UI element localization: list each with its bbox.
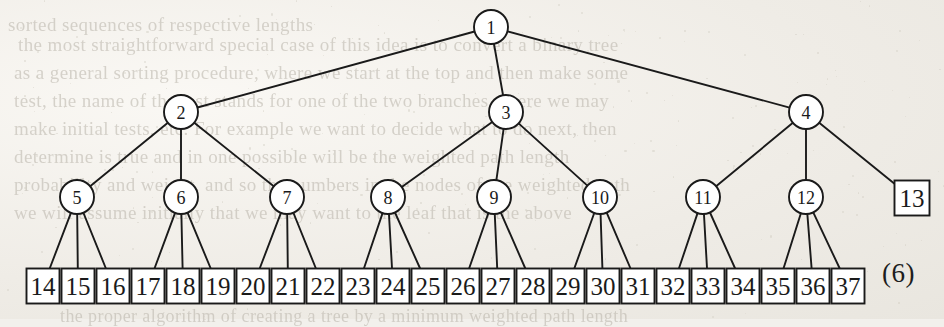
- tree-edge: [402, 122, 492, 187]
- tree-node-label: 21: [276, 273, 301, 300]
- tree-edge: [496, 129, 503, 180]
- tree-edge: [494, 44, 503, 96]
- tree-node-label: 10: [591, 188, 609, 208]
- tree-node-label: 22: [311, 273, 336, 300]
- tree-edge: [574, 213, 594, 269]
- tree-edge: [819, 123, 894, 184]
- tree-edge: [194, 123, 273, 187]
- tree-node-label: 26: [451, 273, 476, 300]
- tree-edge: [154, 213, 175, 269]
- tree-node-label: 34: [731, 273, 757, 300]
- tree-edge: [710, 213, 735, 269]
- tree-edge: [607, 213, 631, 269]
- tree-node-label: 9: [490, 188, 499, 208]
- tree-node-label: 20: [241, 273, 266, 300]
- tree-edge: [293, 213, 316, 269]
- tree-node-label: 23: [346, 273, 371, 300]
- tree-edge: [519, 123, 588, 185]
- tree-edge: [813, 212, 839, 268]
- tree-edge: [83, 213, 106, 269]
- scan-speck: [437, 319, 439, 321]
- tree-node-label: 13: [900, 185, 925, 212]
- tree-edge: [364, 213, 383, 268]
- tree-node-label: 27: [486, 273, 511, 300]
- tree-edge: [260, 213, 281, 269]
- tree-node-label: 37: [836, 273, 861, 300]
- tree-node-label: 29: [556, 273, 581, 300]
- tree-edge: [679, 213, 698, 268]
- tree-node-label: 1: [487, 18, 496, 38]
- tree-edge: [77, 214, 78, 269]
- tree-node-label: 28: [521, 273, 546, 300]
- tree-edge: [50, 213, 71, 269]
- tree-node-label: 16: [101, 273, 126, 300]
- tree-edge: [807, 214, 811, 269]
- tree-node-label: 5: [73, 188, 82, 208]
- tree-node-label: 11: [694, 188, 711, 208]
- tree-edge: [389, 214, 392, 269]
- tree-edge: [469, 213, 488, 268]
- tree-edge: [181, 214, 182, 269]
- tree-edge: [716, 123, 793, 186]
- tree-edge: [197, 31, 474, 107]
- tree-edge: [704, 214, 707, 269]
- tree-node-label: 8: [384, 188, 393, 208]
- tree-node-label: 19: [206, 273, 231, 300]
- tree-node-label: 30: [591, 273, 616, 300]
- tree-node-label: 4: [802, 103, 811, 123]
- tree-node-label: 35: [766, 273, 791, 300]
- tree-node-label: 36: [801, 273, 826, 300]
- tree-node-label: 3: [502, 103, 511, 123]
- tree-node-label: 6: [177, 188, 186, 208]
- tree-edge: [495, 214, 497, 269]
- equation-number: (6): [882, 258, 915, 289]
- tree-node-label: 15: [66, 273, 91, 300]
- tree-node-label: 31: [626, 273, 651, 300]
- tree-edge: [507, 31, 789, 107]
- tree-edge: [90, 123, 168, 186]
- tree-node-label: 25: [416, 273, 441, 300]
- tree-node-label: 33: [696, 273, 721, 300]
- tree-edge: [784, 213, 801, 268]
- tree-node-label: 14: [31, 273, 57, 300]
- tree-node-label: 2: [177, 103, 186, 123]
- tree-node-label: 18: [171, 273, 196, 300]
- tree-edge: [501, 213, 526, 269]
- scan-speck: [204, 319, 205, 320]
- tree-node-label: 7: [283, 188, 292, 208]
- tree-edge: [395, 213, 420, 269]
- tree-edge: [188, 213, 211, 269]
- tree-nodes: 1234567891011121314151617181920212223242…: [27, 10, 930, 304]
- tree-edges: [50, 31, 895, 268]
- tree-node-label: 32: [661, 273, 686, 300]
- tree-node-label: 12: [797, 188, 815, 208]
- tree-node-label: 17: [136, 273, 161, 300]
- tree-edge: [287, 214, 288, 269]
- tree-node-label: 24: [381, 273, 407, 300]
- tree-edge: [601, 214, 603, 269]
